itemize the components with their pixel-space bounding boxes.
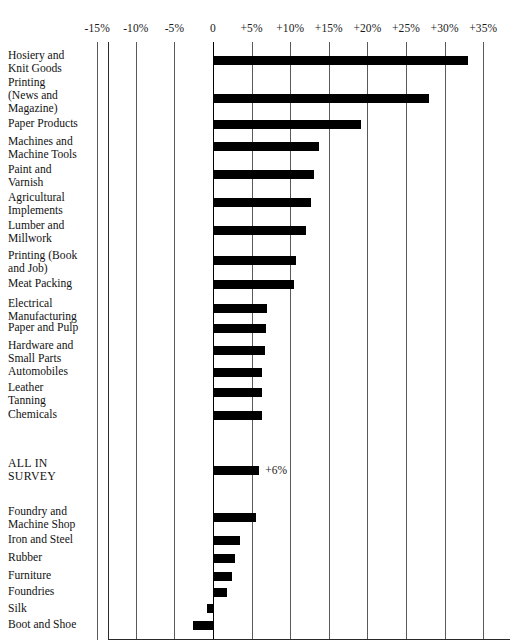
category-label: Foundries (8, 585, 106, 598)
bar (213, 94, 429, 103)
bar (193, 621, 213, 630)
bar (207, 604, 213, 613)
gridline-5 (252, 42, 253, 640)
x-tick-30: +30% (431, 22, 459, 34)
x-tick-20: +20% (353, 22, 381, 34)
bar-value-label: +6% (265, 464, 287, 476)
bar (213, 256, 296, 265)
x-tick-5: -5% (165, 22, 184, 34)
gridline--10 (136, 42, 137, 640)
gridline-0 (213, 42, 214, 640)
bar (213, 572, 232, 581)
gridline--5 (174, 42, 175, 640)
category-label: Paper Products (8, 117, 106, 130)
bar (213, 56, 468, 65)
bar (213, 226, 306, 235)
bar (213, 198, 311, 207)
gridline-30 (445, 42, 446, 640)
bar (213, 142, 319, 151)
bar (213, 170, 314, 179)
x-tick-15: -15% (85, 22, 110, 34)
category-label: Electrical Manufacturing (8, 297, 106, 323)
bar-chart: -15%-10%-5%0+5%+10%+15%+20%+25%+30%+35% … (0, 0, 510, 640)
bar (213, 324, 266, 333)
bar (213, 368, 262, 377)
category-label: Rubber (8, 551, 106, 564)
label-column-divider (108, 42, 109, 640)
category-label: Paper and Pulp (8, 321, 106, 334)
category-label: Foundry and Machine Shop (8, 505, 106, 531)
bar (213, 304, 267, 313)
x-tick-25: +25% (392, 22, 420, 34)
bar (213, 411, 262, 420)
x-tick-10: +10% (276, 22, 304, 34)
category-label: Chemicals (8, 408, 106, 421)
category-label: ALL IN SURVEY (8, 457, 106, 483)
category-label: Printing (News and Magazine) (8, 76, 106, 116)
category-label: Agricultural Implements (8, 191, 106, 217)
gridline-15 (329, 42, 330, 640)
category-label: Automobiles (8, 365, 106, 378)
gridline-10 (290, 42, 291, 640)
bar (213, 280, 294, 289)
gridline-20 (367, 42, 368, 640)
bar (213, 388, 262, 397)
bar (213, 466, 259, 475)
category-label: Furniture (8, 569, 106, 582)
x-tick-5: +5% (241, 22, 263, 34)
category-label: Hardware and Small Parts (8, 339, 106, 365)
gridline-35 (483, 42, 484, 640)
category-label: Meat Packing (8, 277, 106, 290)
bar (213, 120, 361, 129)
x-tick-10: -10% (123, 22, 148, 34)
x-tick-35: +35% (469, 22, 497, 34)
x-tick-0: 0 (210, 22, 216, 34)
category-label: Leather Tanning (8, 381, 106, 407)
bar (213, 536, 240, 545)
category-label: Lumber and Millwork (8, 219, 106, 245)
bar (213, 588, 227, 597)
category-label: Machines and Machine Tools (8, 135, 106, 161)
bar (213, 554, 235, 563)
category-label: Paint and Varnish (8, 163, 106, 189)
category-label: Printing (Book and Job) (8, 249, 106, 275)
category-label: Iron and Steel (8, 533, 106, 546)
category-label: Silk (8, 602, 106, 615)
category-label: Boot and Shoe (8, 618, 106, 631)
category-label: Hosiery and Knit Goods (8, 49, 106, 75)
gridline-25 (406, 42, 407, 640)
bar (213, 346, 265, 355)
bar (213, 513, 256, 522)
x-tick-15: +15% (315, 22, 343, 34)
